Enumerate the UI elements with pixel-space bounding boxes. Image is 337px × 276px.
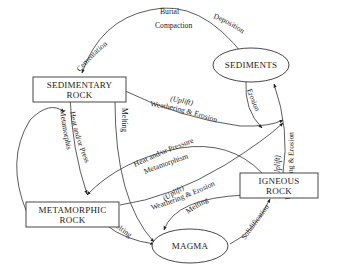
rock-cycle-diagram: Cementation Burial Compaction Deposition… [0,0,337,276]
label-deposition: Deposition [212,11,246,35]
label-sedmeta-metamorphism: Metamorphism [0,0,74,150]
label-compaction: Compaction [155,21,192,30]
node-sediments-line1: SEDIMENTS [225,60,277,70]
label-burial: Burial [160,7,179,16]
label-sed-melting: Melting [120,108,129,132]
node-metamorphic-line2: ROCK [60,215,86,225]
edge-meta-loop [17,108,64,214]
label-erosion: Erosion [245,88,262,113]
node-magma-line1: MAGMA [172,241,209,251]
label-cementation: Cementation [75,39,109,73]
node-sedimentary-line1: SEDIMENTARY [47,80,113,90]
node-sedimentary-rock: SEDIMENTARY ROCK [33,77,126,102]
node-metamorphic-rock: METAMORPHIC ROCK [26,202,119,227]
node-igneous-rock: IGNEOUS ROCK [240,173,318,198]
label-solidification: Solidification [239,202,271,241]
node-magma: MAGMA [152,229,228,263]
node-sedimentary-line2: ROCK [67,90,93,100]
node-sediments: SEDIMENTS [213,48,289,82]
node-metamorphic-line1: METAMORPHIC [39,205,107,215]
node-igneous-line2: ROCK [266,186,292,196]
node-igneous-line1: IGNEOUS [259,176,300,186]
